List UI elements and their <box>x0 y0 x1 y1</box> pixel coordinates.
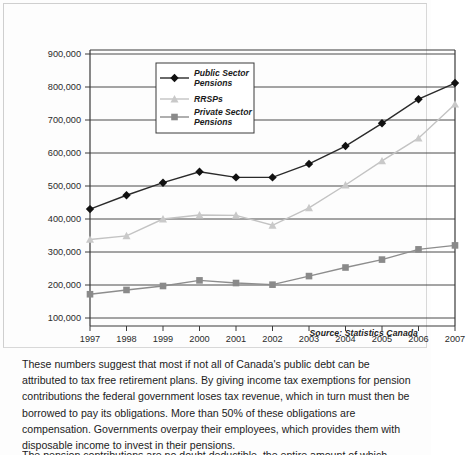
data-point-triangle <box>378 157 386 164</box>
pension-assets-line-chart: 100,000200,000300,000400,000500,000600,0… <box>40 16 470 366</box>
x-tick-label: 2001 <box>226 334 246 344</box>
series-lines-group <box>90 83 455 294</box>
chart-legend: Public SectorPensionsRRSPsPrivate Sector… <box>156 63 254 133</box>
data-point-diamond <box>268 173 276 181</box>
data-point-triangle <box>451 100 459 107</box>
y-tick-label: 200,000 <box>48 280 81 290</box>
data-point-diamond <box>414 95 422 103</box>
data-point-diamond <box>86 205 94 213</box>
legend-label: RRSPs <box>194 94 223 104</box>
legend-label: Pensions <box>194 78 232 88</box>
data-point-square <box>342 264 349 271</box>
y-tick-label: 700,000 <box>48 115 81 125</box>
data-point-square <box>160 283 167 290</box>
data-point-square <box>196 277 203 284</box>
data-point-diamond <box>122 191 130 199</box>
data-point-triangle <box>305 204 313 211</box>
x-tick-label: 2002 <box>262 334 282 344</box>
x-tick-label: 1999 <box>153 334 173 344</box>
y-tick-label: 800,000 <box>48 82 81 92</box>
data-point-diamond <box>195 168 203 176</box>
y-tick-labels-group: 100,000200,000300,000400,000500,000600,0… <box>48 49 81 323</box>
body-paragraph: These numbers suggest that most if not a… <box>22 356 414 453</box>
legend-label: Pensions <box>194 117 232 127</box>
legend-label: Private Sector <box>194 107 252 117</box>
x-tick-label: 2007 <box>445 334 465 344</box>
x-tick-label: 1997 <box>80 334 100 344</box>
legend-marker-square <box>171 114 178 121</box>
data-point-diamond <box>232 173 240 181</box>
data-point-square <box>123 287 130 294</box>
data-point-square <box>415 246 422 253</box>
data-point-diamond <box>305 160 313 168</box>
data-point-diamond <box>451 79 459 87</box>
data-point-square <box>269 281 276 288</box>
y-tick-label: 300,000 <box>48 247 81 257</box>
data-point-diamond <box>341 142 349 150</box>
gridlines-group <box>85 54 455 318</box>
y-tick-label: 100,000 <box>48 313 81 323</box>
data-point-square <box>87 291 94 298</box>
data-point-square <box>379 256 386 263</box>
paragraph-text: These numbers suggest that most if not a… <box>22 356 414 453</box>
data-point-square <box>306 273 313 280</box>
y-tick-label: 900,000 <box>48 49 81 59</box>
source-attribution: Source: Statistics Canada <box>309 328 418 338</box>
series-line-diamond <box>90 83 455 209</box>
data-point-triangle <box>342 181 350 188</box>
y-tick-label: 600,000 <box>48 148 81 158</box>
data-point-square <box>452 242 459 249</box>
x-tick-label: 1998 <box>116 334 136 344</box>
x-tick-label: 2000 <box>189 334 209 344</box>
y-tick-label: 400,000 <box>48 214 81 224</box>
data-point-square <box>233 280 240 287</box>
chart-canvas: 100,000200,000300,000400,000500,000600,0… <box>40 16 470 366</box>
series-markers-group <box>86 79 459 298</box>
clipped-next-line: The pension contributions are no doubt d… <box>22 447 414 455</box>
y-tick-label: 500,000 <box>48 181 81 191</box>
legend-label: Public Sector <box>194 68 250 78</box>
